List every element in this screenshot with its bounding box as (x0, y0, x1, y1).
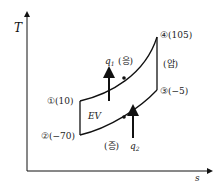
q2-label: q2 (130, 141, 140, 152)
point-4-label: ④(105) (160, 30, 192, 40)
flow-marker-lower (122, 115, 126, 119)
evaporation-label: (증) (104, 141, 119, 151)
y-axis-label: T (14, 21, 23, 35)
expansion-label: EV (87, 111, 103, 121)
curve-condensation (80, 37, 157, 101)
flow-marker-upper (122, 76, 126, 80)
point-3-label: ③(−5) (160, 86, 188, 96)
condensation-label: (응) (118, 56, 133, 66)
point-2-label: ②(−70) (41, 131, 75, 141)
point-1-label: ①(10) (47, 96, 73, 106)
compression-label: (압) (163, 58, 178, 69)
x-axis-label: s (195, 173, 200, 183)
q1-label: q1 (105, 56, 115, 67)
ts-diagram: T s ①(10) ②(−70) ③(−5) ④(105) q1 (응) (압)… (0, 0, 219, 187)
